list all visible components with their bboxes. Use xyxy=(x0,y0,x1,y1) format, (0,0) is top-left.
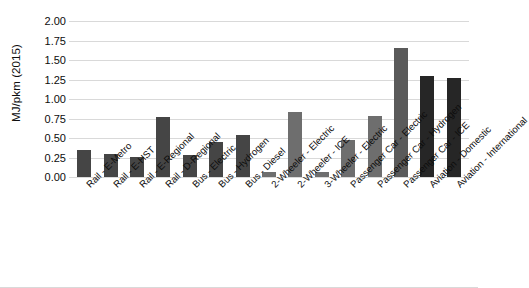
bar-slot xyxy=(71,21,97,177)
y-axis-tick-label: 0.75 xyxy=(45,113,66,125)
y-axis-title: MJ/pkm (2015) xyxy=(10,3,22,163)
y-axis-tick-label: 0.00 xyxy=(45,171,66,183)
y-axis-tick-labels: 2.001.751.501.251.000.750.500.250.00 xyxy=(26,14,68,184)
y-axis-tick-label: 1.25 xyxy=(45,74,66,86)
y-axis-tick-label: 0.25 xyxy=(45,152,66,164)
y-axis-tick-label: 1.75 xyxy=(45,35,66,47)
y-axis-tick-label: 2.00 xyxy=(45,15,66,27)
y-axis-tick-label: 1.00 xyxy=(45,93,66,105)
bar[interactable] xyxy=(77,150,91,177)
y-axis-tick-label: 0.50 xyxy=(45,132,66,144)
y-axis-tick-label: 1.50 xyxy=(45,54,66,66)
y-axis-title-container: MJ/pkm (2015) xyxy=(0,0,26,186)
x-axis-category-labels: Rail - E-MetroRail - E-HSTRail - E-Regio… xyxy=(69,178,469,283)
